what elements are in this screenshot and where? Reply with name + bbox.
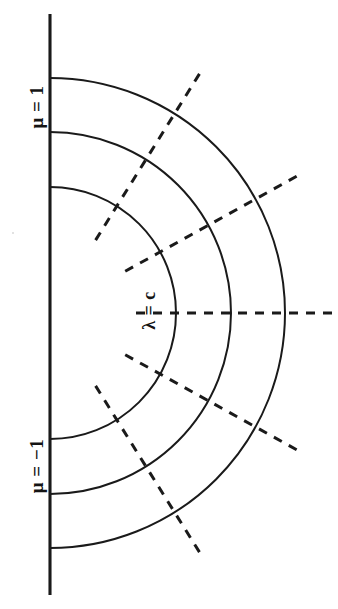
mu-ray-5-dashed xyxy=(96,386,201,554)
scan-speck xyxy=(12,232,14,234)
mu-ray-4-dashed xyxy=(125,355,298,451)
mu-ray-2-dashed xyxy=(125,175,298,271)
coordinate-diagram xyxy=(0,0,338,609)
lambda-arc-group xyxy=(50,78,285,548)
mu-bottom-label: μ = −1 xyxy=(26,423,48,509)
lambda-arc-outer xyxy=(50,78,285,548)
lambda-center-label: λ = c xyxy=(139,275,160,347)
mu-top-label: μ = 1 xyxy=(26,74,48,140)
figure-canvas: μ = 1 μ = −1 λ = c xyxy=(0,0,338,609)
mu-ray-1-dashed xyxy=(96,72,201,240)
